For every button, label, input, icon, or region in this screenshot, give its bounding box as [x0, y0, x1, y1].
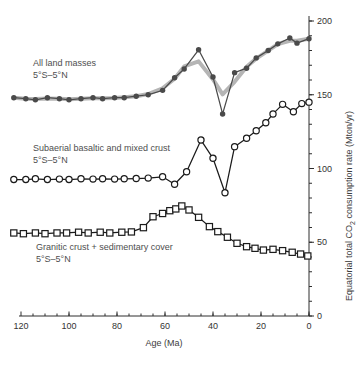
open-circle-marker: [232, 144, 238, 150]
filled-circle-marker: [254, 55, 259, 60]
open-circle-marker: [11, 176, 17, 182]
open-circle-marker: [299, 101, 305, 107]
filled-circle-marker: [160, 88, 165, 93]
open-circle-marker: [253, 128, 259, 134]
open-square-marker: [206, 224, 212, 230]
filled-circle-marker: [232, 70, 237, 75]
open-square-marker: [179, 203, 185, 209]
open-square-marker: [173, 206, 179, 212]
open-square-marker: [76, 229, 82, 235]
filled-circle-marker: [134, 94, 139, 99]
x-tick-label: 80: [112, 321, 122, 331]
open-square-marker: [160, 210, 166, 216]
open-circle-marker: [78, 176, 84, 182]
series-label-all-land-masses: All land masses 5°S–5°N: [33, 58, 96, 81]
filled-circle-marker: [57, 96, 62, 101]
open-circle-marker: [100, 176, 106, 182]
filled-circle-marker: [210, 74, 215, 79]
open-circle-marker: [280, 101, 286, 107]
open-circle-marker: [145, 175, 151, 181]
series-label-line1: All land masses: [33, 58, 96, 70]
series-label-line1: Subaerial basaltic and mixed crust: [33, 143, 170, 155]
open-square-marker: [280, 248, 286, 254]
open-circle-marker: [244, 135, 250, 141]
open-circle-marker: [32, 176, 38, 182]
filled-circle-marker: [220, 111, 225, 116]
series-label-line2: 5°S–5°N: [33, 70, 96, 82]
open-square-marker: [167, 208, 173, 214]
open-square-marker: [260, 247, 266, 253]
open-circle-marker: [56, 176, 62, 182]
y-tick-label: 0: [317, 311, 322, 321]
open-circle-marker: [112, 176, 118, 182]
open-circle-marker: [172, 181, 178, 187]
open-square-marker: [150, 214, 156, 220]
filled-circle-marker: [45, 95, 50, 100]
co2-consumption-figure: 120100806040200050100150200 All land mas…: [0, 0, 358, 375]
y-tick-label: 150: [317, 90, 332, 100]
open-square-marker: [186, 207, 192, 213]
open-square-marker: [32, 230, 38, 236]
open-circle-marker: [44, 176, 50, 182]
x-tick-label: 60: [160, 321, 170, 331]
open-square-marker: [270, 246, 276, 252]
open-circle-marker: [263, 120, 269, 126]
series-label-line2: 5°S–5°N: [33, 155, 170, 167]
open-circle-marker: [133, 175, 139, 181]
x-tick-label: 0: [306, 321, 311, 331]
open-square-marker: [54, 230, 60, 236]
open-square-marker: [85, 230, 91, 236]
open-square-marker: [252, 245, 258, 251]
open-square-marker: [298, 251, 304, 257]
open-circle-marker: [160, 174, 166, 180]
open-square-marker: [215, 229, 221, 235]
open-square-marker: [224, 234, 230, 240]
open-square-marker: [305, 253, 311, 259]
open-circle-marker: [121, 176, 127, 182]
filled-circle-marker: [23, 96, 28, 101]
y-tick-label: 100: [317, 164, 332, 174]
filled-circle-marker: [33, 97, 38, 102]
chart-canvas: 120100806040200050100150200: [0, 0, 358, 375]
open-square-marker: [244, 244, 250, 250]
filled-circle-marker: [90, 95, 95, 100]
open-square-marker: [234, 240, 240, 246]
filled-circle-marker: [11, 95, 16, 100]
filled-circle-marker: [275, 41, 280, 46]
open-square-marker: [20, 231, 26, 237]
open-circle-marker: [210, 155, 216, 161]
open-square-marker: [128, 229, 134, 235]
y-axis-title: Equatorial total CO2 consumption rate (M…: [344, 111, 356, 301]
open-circle-marker: [222, 190, 228, 196]
filled-circle-marker: [196, 47, 201, 52]
series-label-line1: Granitic crust + sedimentary cover: [36, 242, 173, 254]
open-square-marker: [196, 214, 202, 220]
open-circle-marker: [184, 169, 190, 175]
x-tick-label: 40: [208, 321, 218, 331]
filled-circle-marker: [172, 75, 177, 80]
filled-circle-marker: [112, 95, 117, 100]
x-axis-title: Age (Ma): [19, 338, 309, 348]
y-axis-title-part: Equatorial total CO: [344, 225, 354, 301]
x-tick-label: 120: [13, 321, 28, 331]
y-axis-title-part: consumption rate (Mton/yr): [344, 111, 354, 221]
open-circle-marker: [306, 99, 312, 105]
filled-circle-marker: [66, 97, 71, 102]
filled-circle-marker: [306, 36, 311, 41]
series-label-subaerial-basaltic: Subaerial basaltic and mixed crust 5°S–5…: [33, 143, 170, 166]
open-circle-marker: [90, 176, 96, 182]
filled-circle-marker: [78, 96, 83, 101]
x-tick-label: 20: [256, 321, 266, 331]
open-circle-marker: [270, 111, 276, 117]
open-square-marker: [119, 229, 125, 235]
x-tick-label: 100: [61, 321, 76, 331]
open-square-marker: [11, 230, 17, 236]
filled-circle-marker: [294, 40, 299, 45]
filled-circle-marker: [244, 66, 249, 71]
filled-circle-marker: [100, 96, 105, 101]
open-square-marker: [97, 229, 103, 235]
open-square-marker: [289, 249, 295, 255]
filled-circle-marker: [146, 92, 151, 97]
open-square-marker: [64, 230, 70, 236]
y-tick-label: 200: [317, 16, 332, 26]
